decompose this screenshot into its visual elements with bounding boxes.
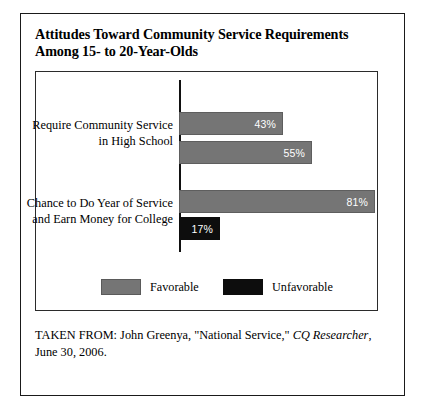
legend-swatch-favorable (101, 279, 141, 295)
legend-label-favorable: Favorable (150, 281, 199, 293)
bar-favorable-81: 81% (179, 190, 375, 213)
bar-value-label: 17% (192, 223, 214, 234)
category-label-require-community-service: Require Community Service in High School (13, 118, 173, 149)
source-note-prefix: TAKEN FROM: John Greenya, "National Serv… (35, 328, 293, 342)
bar-value-label: 43% (254, 118, 276, 129)
bar-value-label: 81% (346, 196, 368, 207)
category-label-line: Chance to Do Year of Service (13, 196, 173, 212)
legend-item-favorable: Favorable (101, 278, 199, 296)
source-note-line-2: June 30, 2006. (35, 344, 387, 361)
page-title: Attitudes Toward Community Service Requi… (35, 26, 387, 60)
bar-unfavorable-55: 55% (179, 141, 312, 164)
category-label-line: in High School (13, 134, 173, 150)
bar-favorable-43: 43% (179, 112, 283, 135)
bar-value-label: 55% (283, 147, 305, 158)
category-label-chance-to-do-year-of-service: Chance to Do Year of Service and Earn Mo… (13, 196, 173, 227)
legend: Favorable Unfavorable (101, 278, 361, 298)
legend-label-unfavorable: Unfavorable (272, 281, 333, 293)
bar-unfavorable-17: 17% (179, 217, 220, 240)
source-note-publication: CQ Researcher (293, 328, 369, 342)
category-label-line: Require Community Service (13, 118, 173, 134)
legend-swatch-unfavorable (223, 279, 263, 295)
legend-item-unfavorable: Unfavorable (223, 278, 333, 296)
source-note-line-1: TAKEN FROM: John Greenya, "National Serv… (35, 327, 387, 344)
chart-title-line-1: Attitudes Toward Community Service Requi… (35, 26, 387, 43)
plot-area: Require Community Service in High School… (35, 71, 378, 311)
chart-title-line-2: Among 15- to 20-Year-Olds (35, 43, 387, 60)
source-note: TAKEN FROM: John Greenya, "National Serv… (35, 327, 387, 360)
category-label-line: and Earn Money for College (13, 212, 173, 228)
figure-frame: Attitudes Toward Community Service Requi… (20, 13, 405, 396)
source-note-suffix: , (368, 328, 371, 342)
